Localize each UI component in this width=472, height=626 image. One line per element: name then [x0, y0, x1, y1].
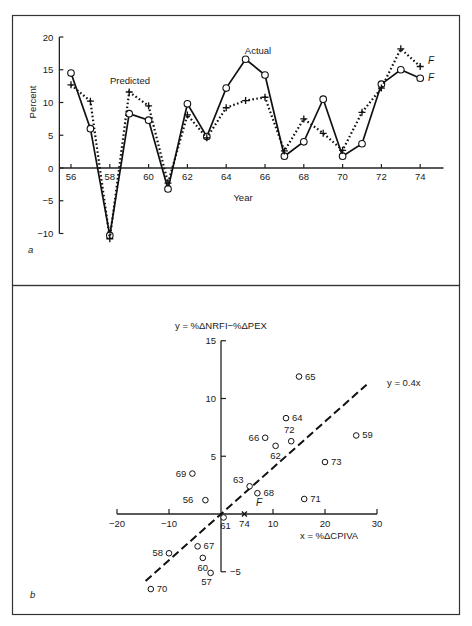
x-axis-label: x = %ΔCPIVA	[300, 530, 359, 541]
circle-marker	[165, 186, 172, 193]
scatter-point	[247, 483, 253, 489]
scatter-point	[353, 433, 359, 439]
x-tick-label: 20	[320, 518, 331, 529]
scatter-point	[301, 496, 307, 502]
x-tick-label: 60	[143, 171, 154, 182]
circle-marker	[68, 70, 75, 77]
panel-a-frame	[13, 16, 460, 286]
y-tick-label: −10	[37, 228, 53, 239]
x-tick-label: 56	[66, 171, 77, 182]
point-label: 57	[201, 576, 212, 587]
point-label: 69	[176, 468, 187, 479]
scatter-point	[190, 471, 196, 477]
x-tick-label: 62	[182, 171, 193, 182]
figure: −10−50510152056586062646668707274 Percen…	[0, 0, 472, 626]
circle-marker	[339, 153, 346, 160]
y-tick-label: 15	[205, 335, 216, 346]
x-tick-label: 58	[105, 171, 116, 182]
circle-marker	[320, 96, 327, 103]
circle-marker	[359, 140, 366, 147]
x-tick-label: 66	[260, 171, 271, 182]
y-tick-label: 5	[211, 451, 216, 462]
annotation-predicted: Predicted	[110, 75, 150, 86]
y-tick-label: 10	[43, 97, 54, 108]
scatter-point	[255, 490, 261, 496]
scatter-points: 56575859606162636465666768697071727374	[148, 371, 373, 595]
panel-a-line-chart: −10−50510152056586062646668707274 Percen…	[27, 32, 443, 256]
x-tick-label: 72	[376, 171, 387, 182]
scatter-point	[200, 555, 206, 561]
scatter-point	[296, 374, 302, 380]
panel-label-b: b	[30, 589, 35, 600]
point-label: 61	[220, 520, 231, 531]
forecast-label-actual: F	[428, 72, 435, 83]
x-tick-label: −20	[109, 518, 125, 529]
plus-marker	[417, 63, 424, 70]
y-axis-label-percent: Percent	[27, 85, 38, 118]
scatter-point	[262, 435, 268, 441]
point-label: 71	[310, 493, 321, 504]
circle-marker	[398, 66, 405, 73]
circle-marker	[262, 72, 269, 79]
annotation-actual: Actual	[245, 45, 271, 56]
circle-marker	[417, 75, 424, 82]
point-label: 64	[292, 412, 303, 423]
panel-a-ticks: −10−50510152056586062646668707274	[37, 32, 425, 240]
circle-marker	[87, 125, 94, 132]
circle-marker	[184, 101, 191, 108]
point-label: 72	[284, 424, 295, 435]
scatter-point	[148, 586, 154, 592]
scatter-point	[195, 544, 201, 550]
circle-marker	[223, 85, 230, 92]
forecast-label-F: F	[256, 497, 263, 508]
x-tick-label: 30	[372, 518, 383, 529]
point-label: 65	[305, 371, 316, 382]
circle-marker	[242, 56, 249, 63]
x-axis-label-year: Year	[233, 192, 252, 203]
y-tick-label: −5	[230, 566, 241, 577]
point-label: 62	[270, 450, 281, 461]
point-label: 58	[152, 547, 163, 558]
scatter-point	[273, 443, 279, 449]
point-label: 59	[362, 429, 373, 440]
plus-marker	[126, 89, 133, 96]
fit-line-label: y = 0.4x	[387, 377, 421, 388]
panel-label-a: a	[28, 244, 33, 255]
forecast-label-predicted: F	[428, 55, 435, 66]
plus-marker	[242, 97, 249, 104]
point-label: 56	[183, 494, 194, 505]
point-label: 68	[263, 487, 274, 498]
plus-marker	[397, 45, 404, 52]
y-tick-label: −5	[43, 195, 54, 206]
x-tick-label: −10	[161, 518, 177, 529]
panel-b-frame	[13, 286, 460, 615]
point-label: 63	[233, 474, 244, 485]
forecast-point-label: 74	[239, 518, 250, 529]
plus-marker	[87, 98, 94, 105]
point-label: 70	[157, 583, 168, 594]
point-label: 60	[198, 562, 209, 573]
circle-marker	[301, 139, 308, 146]
scatter-point	[322, 459, 328, 465]
y-axis-label: y = %ΔNRFI−%ΔPEX	[175, 320, 268, 331]
scatter-point	[221, 515, 227, 521]
point-label: 66	[249, 432, 260, 443]
y-tick-label: 5	[48, 130, 53, 141]
scatter-point	[283, 415, 289, 421]
fit-line-dashed	[146, 385, 367, 581]
scatter-point	[208, 570, 214, 576]
x-tick-label: 70	[337, 171, 348, 182]
y-tick-label: 10	[205, 393, 216, 404]
plus-marker	[262, 94, 269, 101]
point-label: 67	[204, 540, 215, 551]
fit-line	[146, 385, 367, 581]
scatter-point	[166, 550, 172, 556]
scatter-point	[203, 497, 209, 503]
panel-b-scatter-chart: −20−10102030−551015 56575859606162636465…	[30, 320, 421, 600]
panel-a-axes	[59, 37, 443, 234]
x-tick-label: 68	[299, 171, 310, 182]
x-tick-label: 64	[221, 171, 232, 182]
point-label: 73	[331, 456, 342, 467]
x-tick-label: 74	[415, 171, 426, 182]
y-tick-label: 20	[43, 32, 54, 43]
